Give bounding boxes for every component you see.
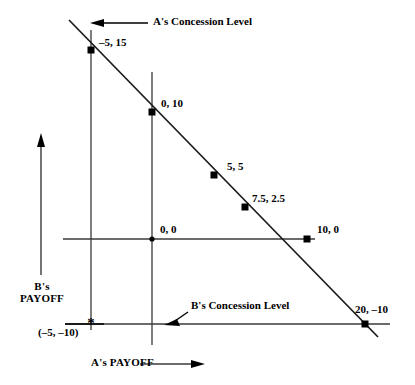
point-label-neg5-neg10: (–5, –10) bbox=[38, 327, 78, 339]
marker-0-10 bbox=[149, 109, 156, 116]
a-concession-leader bbox=[90, 19, 148, 27]
marker-neg5-neg10: * bbox=[87, 315, 95, 331]
b-concession-label: B's Concession Level bbox=[191, 300, 289, 312]
marker-10-0 bbox=[304, 236, 311, 243]
point-label-5-5: 5, 5 bbox=[227, 161, 244, 173]
marker-origin bbox=[149, 236, 154, 241]
point-label-neg5-15: –5, 15 bbox=[99, 37, 127, 49]
marker-20-neg10 bbox=[362, 321, 369, 328]
frontier-line bbox=[69, 20, 378, 337]
y-axis-arrow bbox=[37, 133, 45, 275]
point-label-0-10: 0, 10 bbox=[161, 98, 183, 110]
a-concession-label: A's Concession Level bbox=[153, 16, 252, 28]
marker-5-5 bbox=[211, 172, 218, 179]
point-label-10-0: 10, 0 bbox=[317, 224, 339, 236]
y-axis-title-line2: PAYOFF bbox=[12, 293, 72, 305]
marker-neg5-15 bbox=[88, 47, 95, 54]
point-label-7.5-2.5: 7.5, 2.5 bbox=[252, 193, 285, 205]
marker-7.5-2.5 bbox=[242, 204, 249, 211]
payoff-frontier-figure: * A's Concession Level B's Concession Le… bbox=[0, 0, 415, 385]
x-axis-title: A's PAYOFF bbox=[91, 357, 154, 369]
point-label-20-neg10: 20, –10 bbox=[355, 304, 388, 316]
y-axis-title-line1: B's bbox=[12, 281, 72, 293]
point-label-origin: 0, 0 bbox=[160, 224, 177, 236]
